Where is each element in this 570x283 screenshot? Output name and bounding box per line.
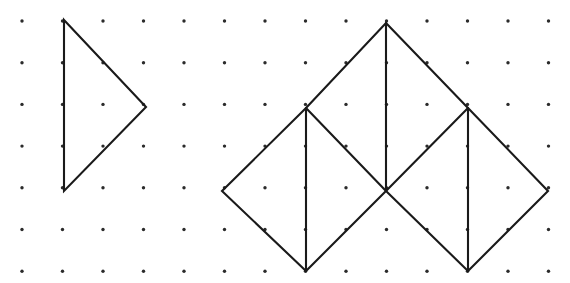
grid-dot [142,144,145,147]
grid-dot [547,103,550,106]
grid-dot [344,270,347,273]
grid-dot [142,19,145,22]
grid-dot [223,61,226,64]
grid-dot [182,228,185,231]
left-triangle [64,20,146,191]
grid-dot [344,19,347,22]
grid-dot [61,228,64,231]
grid-dot [101,19,104,22]
grid-dot [101,186,104,189]
right-diagonal-down [386,108,468,191]
grid-dot [425,103,428,106]
grid-dot [101,103,104,106]
grid-dot [223,19,226,22]
grid-dot [182,186,185,189]
grid-dot [263,270,266,273]
grid-dot [142,186,145,189]
grid-dot [263,186,266,189]
grid-dot [547,270,550,273]
grid-dot [182,144,185,147]
grid-dot [182,270,185,273]
grid-dot [506,186,509,189]
grid-dot [425,270,428,273]
left-triangle-outline [64,20,146,191]
grid-dot [142,61,145,64]
grid-dot [182,103,185,106]
grid-dot [223,228,226,231]
grid-dot [385,228,388,231]
grid-dot [263,61,266,64]
grid-dot [20,19,23,22]
grid-dot [142,228,145,231]
grid-dot [547,61,550,64]
grid-dot [182,61,185,64]
grid-dot [506,270,509,273]
grid-dot [344,186,347,189]
grid-dot [20,186,23,189]
grid-dot [61,270,64,273]
grid-dot [425,186,428,189]
grid-dot [506,19,509,22]
grid-dot [263,103,266,106]
grid-dot [182,19,185,22]
shapes-layer [64,20,548,271]
grid-dot [547,19,550,22]
grid-dot [263,19,266,22]
grid-dot [101,144,104,147]
grid-dot [547,144,550,147]
grid-dot [101,228,104,231]
grid-dot [547,228,550,231]
grid-dot [506,103,509,106]
grid-dot [385,270,388,273]
grid-dot [20,61,23,64]
figure-canvas [0,0,570,283]
grid-dot [20,228,23,231]
grid-dot [344,103,347,106]
grid-dot [304,103,307,106]
grid-dot [223,144,226,147]
right-composite-net [222,23,548,271]
grid-dot [304,61,307,64]
grid-dot [142,270,145,273]
grid-dot [20,103,23,106]
grid-dot [425,19,428,22]
grid-dot [20,144,23,147]
grid-dot [101,270,104,273]
grid-dot [20,270,23,273]
grid-dot [506,61,509,64]
grid-dot [466,19,469,22]
left-diagonal-down [306,108,386,191]
grid-dot [223,270,226,273]
grid-dot [304,19,307,22]
grid-dot [223,103,226,106]
grid-dot [466,61,469,64]
dot-grid-figure [0,0,570,283]
